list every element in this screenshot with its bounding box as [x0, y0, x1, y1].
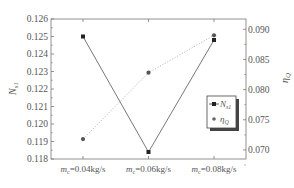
- left-tick-label: 0.125: [27, 32, 49, 42]
- series-lines: [83, 35, 214, 152]
- plot-frame: [51, 19, 246, 159]
- legend: Ns1 ηQ: [207, 96, 239, 131]
- circle-marker-icon: [212, 117, 216, 121]
- x-category-label: mc=0.08kg/s: [191, 164, 236, 175]
- right-tick-label: 0.090: [248, 25, 270, 35]
- series-markers: [81, 33, 216, 154]
- left-tick-label: 0.122: [27, 84, 49, 94]
- data-point-circle: [146, 71, 150, 75]
- dual-axis-line-chart: 0.1260.1250.1240.1230.1220.1210.1200.119…: [0, 0, 294, 188]
- data-point-square: [147, 150, 151, 154]
- x-category-label: mc=0.06kg/s: [126, 164, 171, 175]
- left-axis-title: Ns1: [7, 82, 20, 96]
- left-y-axis: 0.1260.1250.1240.1230.1220.1210.1200.119…: [27, 14, 54, 164]
- left-tick-label: 0.119: [27, 137, 48, 147]
- left-tick-label: 0.121: [27, 102, 49, 112]
- data-point-circle: [212, 33, 216, 37]
- data-point-square: [212, 38, 216, 42]
- square-marker-icon: [212, 102, 216, 106]
- left-tick-label: 0.120: [27, 119, 49, 129]
- right-tick-label: 0.070: [248, 145, 270, 155]
- right-tick-label: 0.085: [248, 55, 270, 65]
- right-y-axis: 0.0900.0850.0800.0750.070: [243, 25, 270, 165]
- left-tick-label: 0.123: [27, 67, 49, 77]
- series-line-left: [83, 37, 214, 153]
- data-point-circle: [81, 137, 85, 141]
- left-tick-label: 0.124: [27, 49, 49, 59]
- right-tick-label: 0.080: [248, 85, 270, 95]
- x-category-label: mc=0.04kg/s: [60, 164, 105, 175]
- right-tick-label: 0.075: [248, 115, 270, 125]
- left-tick-label: 0.118: [27, 154, 48, 164]
- left-tick-label: 0.126: [27, 14, 49, 24]
- data-point-square: [81, 35, 85, 39]
- series-line-right: [83, 35, 214, 139]
- right-axis-title: ηQ: [279, 73, 292, 83]
